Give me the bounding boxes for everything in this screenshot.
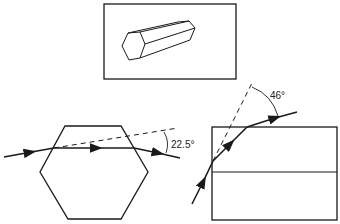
crystal-panel [104,4,236,79]
diagram: 22.5° 46° [0,0,340,224]
hexagon-panel: 22.5° [4,126,194,219]
angle-label-46: 46° [270,90,285,101]
prism-panel: 46° [192,83,337,220]
angle-label-22-5: 22.5° [171,139,194,150]
